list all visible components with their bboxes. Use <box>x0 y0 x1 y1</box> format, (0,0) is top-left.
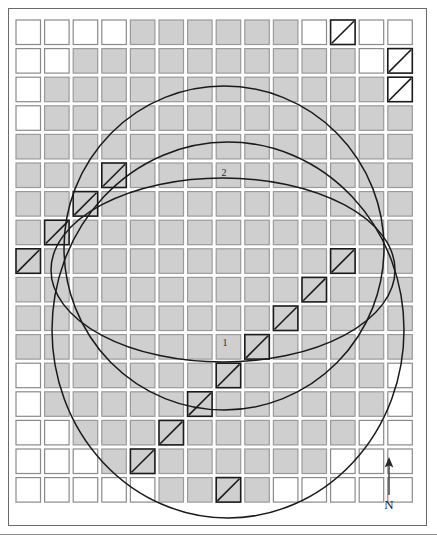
north-label: N <box>372 497 406 513</box>
grid-cell <box>159 449 184 474</box>
grid-cell <box>159 249 184 273</box>
grid-cell <box>159 106 184 131</box>
grid-cell <box>45 20 70 45</box>
grid-cell <box>73 478 98 503</box>
grid-cell <box>359 134 384 159</box>
grid-cell <box>388 20 413 45</box>
bottom-rule <box>0 534 437 535</box>
grid-cell <box>188 163 213 188</box>
grid-cell <box>130 249 155 273</box>
grid-cell <box>388 163 413 188</box>
grid-cell <box>245 20 269 45</box>
grid-cell <box>245 249 269 273</box>
grid-cell <box>130 220 155 245</box>
grid-cell <box>359 106 384 131</box>
grid-cell <box>302 306 327 331</box>
grid-cell <box>273 249 298 273</box>
grid-cell <box>16 420 41 445</box>
grid-cell <box>388 420 413 445</box>
grid-cell <box>130 77 155 102</box>
grid-cell <box>73 363 98 388</box>
grid-cell <box>16 478 41 503</box>
grid-cell <box>273 192 298 217</box>
grid-cell <box>130 306 155 331</box>
grid-cell <box>45 192 70 217</box>
grid-cell <box>188 20 213 45</box>
grid-cell <box>159 20 184 45</box>
grid-cell <box>302 449 327 474</box>
grid-cell <box>302 77 327 102</box>
grid-cell <box>73 335 98 360</box>
grid-cell <box>359 77 384 102</box>
grid-cell <box>216 106 241 131</box>
grid-cell <box>273 49 298 74</box>
grid-cell <box>45 420 70 445</box>
grid-cell <box>102 420 127 445</box>
grid-cell <box>245 449 269 474</box>
grid-cell <box>188 49 213 74</box>
grid-cell <box>216 49 241 74</box>
grid-cell <box>273 449 298 474</box>
grid-cell <box>73 77 98 102</box>
grid-cell <box>102 77 127 102</box>
grid-cell <box>331 478 356 503</box>
grid-cell <box>331 220 356 245</box>
grid-cell <box>130 106 155 131</box>
grid-cell <box>130 20 155 45</box>
grid-cell <box>273 20 298 45</box>
grid-cell <box>45 306 70 331</box>
grid-cell <box>102 335 127 360</box>
grid-cell <box>359 249 384 273</box>
grid-cell <box>16 363 41 388</box>
grid-cell <box>16 392 41 417</box>
grid-cell <box>16 77 41 102</box>
shape-label-2: 2 <box>222 167 227 178</box>
grid-cell <box>188 449 213 474</box>
grid-cell <box>102 277 127 302</box>
grid-cell <box>73 106 98 131</box>
grid-cell <box>331 163 356 188</box>
grid-cell <box>216 306 241 331</box>
north-arrow: N <box>372 455 406 517</box>
grid-cell <box>273 363 298 388</box>
grid-cell <box>245 363 269 388</box>
grid-cell <box>16 277 41 302</box>
grid-cell <box>302 335 327 360</box>
grid-cell <box>388 392 413 417</box>
grid-cell <box>245 163 269 188</box>
grid-cell <box>388 134 413 159</box>
grid-cell <box>302 20 327 45</box>
grid-cell <box>45 106 70 131</box>
grid-cell <box>273 106 298 131</box>
grid-cell <box>45 449 70 474</box>
grid-cell <box>245 478 269 503</box>
grid-cell <box>245 277 269 302</box>
grid-cell <box>45 478 70 503</box>
grid-cell <box>359 49 384 74</box>
grid-cell <box>102 20 127 45</box>
grid-cell <box>130 277 155 302</box>
grid-cell <box>130 420 155 445</box>
grid-cell <box>216 449 241 474</box>
grid-cell <box>45 277 70 302</box>
grid-cell <box>130 392 155 417</box>
grid-cell <box>388 106 413 131</box>
grid-cell <box>73 392 98 417</box>
grid-cell <box>102 363 127 388</box>
grid-cell <box>130 49 155 74</box>
grid-cell <box>45 49 70 74</box>
grid-cell <box>216 392 241 417</box>
grid-cell <box>130 163 155 188</box>
grid-cell <box>16 106 41 131</box>
grid-cell <box>216 277 241 302</box>
grid-cell <box>16 220 41 245</box>
grid-cell <box>102 249 127 273</box>
grid-cell <box>331 277 356 302</box>
grid-cell <box>245 306 269 331</box>
grid-cell <box>45 77 70 102</box>
grid-cell <box>188 478 213 503</box>
grid-cell <box>73 49 98 74</box>
grid-cell <box>273 277 298 302</box>
grid-cell <box>331 49 356 74</box>
grid-cell <box>159 192 184 217</box>
